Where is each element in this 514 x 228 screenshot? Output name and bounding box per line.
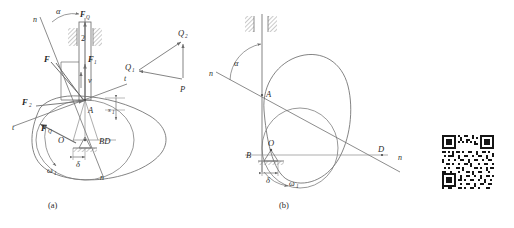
- qr-code: [440, 133, 496, 189]
- svg-text:F: F: [87, 54, 94, 64]
- label-pressure-angle-b: α: [234, 58, 239, 68]
- svg-text:2: 2: [185, 33, 188, 39]
- caption-part-a: (a): [48, 200, 58, 210]
- label-normal-right-b: n: [398, 153, 402, 162]
- label-force-F2-a: F 2: [21, 97, 32, 108]
- label-normal-top-a: n: [33, 15, 37, 24]
- force-F-arrow2-a: [56, 63, 84, 101]
- engineering-figure: n α F Q 2 F F 1 v t t F 2 A s 1 F Q O BD: [0, 0, 514, 228]
- label-cam-center-b: O: [268, 138, 274, 148]
- diagram-a: n α F Q 2 F F 1 v t t F 2 A s 1 F Q O BD: [12, 6, 166, 210]
- label-point-B-b: B: [246, 150, 251, 160]
- svg-text:Q: Q: [48, 128, 52, 134]
- svg-text:1: 1: [296, 183, 299, 189]
- caption-part-b: (b): [279, 200, 289, 210]
- label-tangent-lower-a: t: [12, 123, 15, 132]
- label-triangle-Q2: Q 2: [178, 28, 188, 39]
- svg-text:F: F: [79, 10, 86, 19]
- base-circle-b: [262, 108, 338, 188]
- triangle-side-Q1-Q2: [139, 42, 181, 70]
- label-force-FQ-cam-a: F Q: [40, 123, 52, 134]
- svg-text:Q: Q: [125, 62, 131, 72]
- diagram-b: n α A B O D n δ ω 1 (b): [209, 14, 402, 210]
- label-triangle-Q1: Q 1: [125, 62, 135, 73]
- label-angular-velocity-a: ω 1: [47, 166, 57, 176]
- contact-point-b: [261, 94, 263, 96]
- svg-text:Q: Q: [86, 14, 90, 20]
- svg-text:ω: ω: [289, 179, 295, 188]
- triangle-side-P-Q1: [139, 71, 182, 79]
- svg-text:1: 1: [94, 59, 97, 65]
- guide-hatch-left-a: [68, 28, 77, 46]
- svg-text:1: 1: [132, 67, 135, 73]
- svg-text:s: s: [108, 106, 111, 114]
- radial-O-to-contact-a: [73, 100, 85, 141]
- normal-line-b: [216, 72, 400, 172]
- figure-canvas: n α F Q 2 F F 1 v t t F 2 A s 1 F Q O BD: [0, 0, 514, 228]
- svg-text:2: 2: [29, 102, 32, 108]
- label-force-F-a: F: [43, 54, 50, 64]
- svg-text:1: 1: [112, 109, 115, 115]
- label-force-FQ-top-a: F Q: [79, 10, 90, 20]
- svg-text:F: F: [40, 123, 47, 133]
- label-velocity-a: v: [88, 76, 92, 85]
- svg-text:Q: Q: [178, 28, 184, 38]
- label-offset-a: δ: [76, 159, 81, 169]
- label-instant-center-b: D: [377, 144, 385, 154]
- contact-point-a: [84, 99, 86, 101]
- svg-text:ω: ω: [47, 166, 53, 175]
- svg-text:F: F: [21, 97, 28, 107]
- pivot-center-b: [270, 149, 272, 151]
- guide-hatch-left-b: [245, 16, 254, 32]
- instant-center-point-b: [381, 154, 383, 156]
- force-triangle: Q 1 Q 2 P: [125, 28, 188, 94]
- label-tangent-upper-a: t: [124, 74, 127, 83]
- label-triangle-P: P: [179, 84, 185, 94]
- label-segment-BD-a: BD: [99, 136, 111, 146]
- label-cam-center-a: O: [58, 135, 64, 145]
- label-normal-bottom-a: n: [100, 173, 104, 182]
- guide-hatch-right-a: [93, 28, 102, 46]
- label-normal-left-b: n: [209, 69, 213, 78]
- label-follower-number-a: 2: [81, 34, 85, 43]
- label-contact-point-b: A: [265, 89, 272, 99]
- label-force-F1-a: F 1: [87, 54, 97, 65]
- label-angular-velocity-b: ω 1: [289, 179, 299, 189]
- label-offset-b: δ: [266, 175, 271, 185]
- svg-text:1: 1: [54, 170, 57, 176]
- guide-hatch-right-b: [268, 16, 277, 32]
- label-pressure-angle-a: α: [56, 6, 61, 16]
- label-contact-point-a: A: [87, 105, 94, 115]
